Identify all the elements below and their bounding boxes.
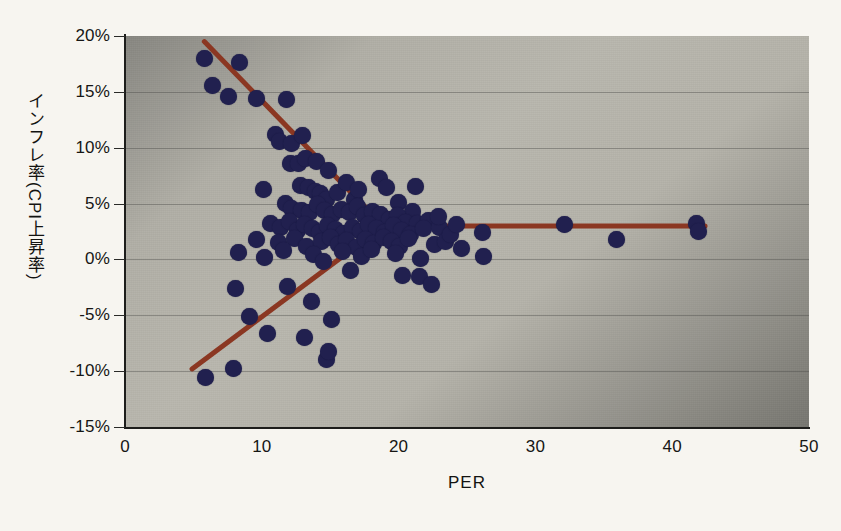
data-point	[241, 308, 258, 325]
data-point	[259, 325, 276, 342]
gridline	[125, 204, 809, 205]
data-point	[303, 293, 320, 310]
data-point	[423, 276, 440, 293]
data-point	[197, 369, 214, 386]
y-tick-mark	[114, 148, 125, 149]
scatter-chart: 20%15%10%5%0%-5%-10%-15% 01020304050 インフ…	[0, 0, 841, 531]
data-point	[363, 241, 380, 258]
data-point	[227, 280, 244, 297]
data-point	[412, 250, 429, 267]
y-tick-mark	[114, 204, 125, 205]
data-point	[278, 91, 295, 108]
y-tick-label: -10%	[70, 361, 111, 381]
data-point	[320, 343, 337, 360]
gridline	[125, 259, 809, 260]
data-point	[394, 267, 411, 284]
y-tick-label: 15%	[75, 82, 110, 102]
data-point	[294, 127, 311, 144]
y-tick-label: -5%	[79, 305, 110, 325]
data-point	[407, 178, 424, 195]
x-axis-line	[124, 427, 810, 429]
data-point	[448, 216, 465, 233]
data-point	[342, 262, 359, 279]
data-point	[378, 179, 395, 196]
data-point	[320, 162, 337, 179]
gridline	[125, 315, 809, 316]
y-axis-line	[124, 34, 126, 429]
x-tick-label: 50	[799, 437, 818, 457]
y-tick-label: 0%	[85, 249, 110, 269]
data-point	[608, 231, 625, 248]
data-point	[275, 242, 292, 259]
data-point	[474, 224, 491, 241]
data-point	[204, 77, 221, 94]
y-tick-mark	[114, 259, 125, 260]
data-point	[315, 253, 332, 270]
y-tick-label: 10%	[75, 138, 110, 158]
gridline	[125, 148, 809, 149]
x-tick-label: 20	[389, 437, 408, 457]
x-tick-label: 40	[663, 437, 682, 457]
data-point	[556, 216, 573, 233]
data-point	[350, 181, 367, 198]
y-tick-mark	[114, 36, 125, 37]
data-point	[196, 50, 213, 67]
data-point	[279, 278, 296, 295]
data-point	[475, 248, 492, 265]
data-point	[248, 231, 265, 248]
x-tick-label: 0	[120, 437, 130, 457]
y-tick-mark	[114, 371, 125, 372]
x-tick-label: 10	[252, 437, 271, 457]
y-tick-label: -15%	[70, 417, 111, 437]
data-point	[255, 181, 272, 198]
data-point	[225, 360, 242, 377]
data-point	[334, 243, 351, 260]
data-point	[323, 311, 340, 328]
data-point	[400, 230, 417, 247]
data-point	[231, 54, 248, 71]
x-axis-title: PER	[125, 473, 809, 493]
y-tick-label: 5%	[85, 194, 110, 214]
y-tick-mark	[114, 427, 125, 428]
data-point	[453, 240, 470, 257]
x-tick-label: 30	[526, 437, 545, 457]
y-tick-mark	[114, 92, 125, 93]
data-point	[296, 329, 313, 346]
data-point	[256, 249, 273, 266]
y-tick-label: 20%	[75, 26, 110, 46]
y-axis-title: インフレ率(CPI上昇率)	[16, 92, 44, 281]
y-tick-mark	[114, 315, 125, 316]
data-point	[248, 90, 265, 107]
data-point	[220, 88, 237, 105]
plot-area	[125, 36, 809, 427]
data-point	[690, 223, 707, 240]
data-point	[415, 220, 432, 237]
